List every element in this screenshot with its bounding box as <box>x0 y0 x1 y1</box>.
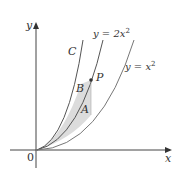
curve-y-x2-label: y = x2 <box>125 61 156 72</box>
region-b-label: B <box>76 83 84 94</box>
curve-y-2x2-label: y = 2x2 <box>93 28 130 39</box>
point-p-label: P <box>96 72 103 83</box>
figure: y x 0 C y = 2x2 y = x2 B A P <box>0 0 184 173</box>
point-p-marker <box>89 78 93 82</box>
origin-label: 0 <box>27 152 34 163</box>
y-axis-arrow <box>33 22 39 29</box>
x-axis-label: x <box>165 153 171 164</box>
curve-c-label: C <box>68 46 76 57</box>
y-axis-label: y <box>26 20 32 31</box>
region-a-label: A <box>81 104 89 115</box>
